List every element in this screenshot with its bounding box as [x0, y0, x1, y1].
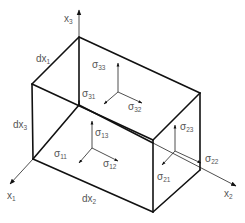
- label-sigma23: σ23: [180, 121, 194, 133]
- label-sigma31: σ31: [82, 88, 96, 100]
- label-dx3: dx3: [13, 119, 28, 131]
- box-element: [32, 37, 200, 212]
- label-sigma33: σ33: [92, 59, 106, 71]
- label-sigma21: σ21: [157, 171, 171, 183]
- label-x1: x1: [7, 190, 16, 202]
- label-dx2: dx2: [82, 193, 97, 205]
- label-x3: x3: [64, 13, 73, 25]
- label-x2: x2: [224, 188, 233, 200]
- label-dx1: dx1: [36, 53, 51, 65]
- axis-x1: [10, 159, 33, 184]
- label-sigma22: σ22: [205, 153, 219, 165]
- label-sigma11: σ11: [54, 148, 67, 160]
- label-sigma13: σ13: [95, 127, 109, 139]
- stress-triad-face3: [104, 63, 142, 104]
- label-sigma32: σ32: [128, 101, 142, 113]
- stress-element-diagram: x3 x1 x2 dx1 dx3 dx2 σ33 σ31 σ32 σ13 σ11…: [0, 0, 245, 223]
